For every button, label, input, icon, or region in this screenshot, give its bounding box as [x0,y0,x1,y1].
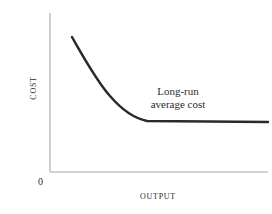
lrac-figure: COST OUTPUT 0 Long-run average cost [0,0,272,214]
curve-annotation-line-2: average cost [132,98,224,111]
curve-annotation-line-1: Long-run [132,85,224,98]
origin-label: 0 [38,177,43,187]
y-axis-label: COST [30,68,38,108]
x-axis-label: OUTPUT [108,193,208,201]
curve-annotation: Long-run average cost [132,85,224,111]
